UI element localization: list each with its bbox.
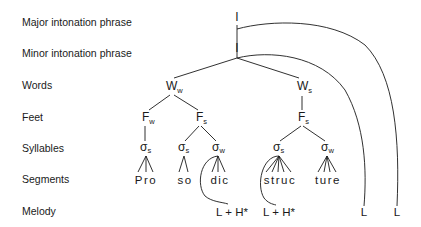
svg-text:σw: σw (212, 140, 225, 155)
svg-text:σw: σw (321, 140, 334, 155)
svg-text:σs: σs (140, 140, 151, 155)
segment-so: so (177, 174, 192, 186)
node-foot-weak: Fw (142, 110, 155, 126)
branch-Ww-Fs (174, 95, 198, 110)
melody-boundary-minor: L (361, 206, 368, 218)
segment-struc: struc (264, 174, 296, 186)
node-word-strong: Ws (297, 79, 312, 95)
branch-Ww-Fw (149, 95, 170, 110)
segment-dic: dic (210, 174, 229, 186)
node-syllable-ture: σw (321, 140, 334, 155)
svg-text:σs: σs (178, 140, 189, 155)
node-syllable-struc: σs (273, 140, 284, 155)
branch-Fs-syl2 (185, 126, 199, 141)
node-foot-strong-2: Fs (298, 110, 309, 126)
node-syllable-pro: σs (140, 140, 151, 155)
association-arc-minor-L (237, 55, 365, 206)
node-word-weak: Ww (166, 79, 183, 95)
segment-ture: ture (315, 174, 341, 186)
melody-accent-1: L + H* (216, 206, 248, 218)
svg-text:Fs: Fs (298, 110, 309, 126)
node-minor-intonation-phrase: I (235, 41, 238, 55)
branch-Fs-syl3 (201, 126, 216, 141)
node-foot-strong-1: Fs (196, 110, 207, 126)
melody-boundary-major: L (394, 206, 401, 218)
branch-minor-Ww (174, 58, 237, 78)
node-major-intonation-phrase: I (235, 10, 238, 24)
node-syllable-dic: σw (212, 140, 225, 155)
prosodic-tree: I I Ww Ws Fw Fs Fs σs σs σw σs σw (0, 0, 421, 227)
branch-Fs-syl4 (280, 126, 301, 141)
svg-text:Ww: Ww (166, 79, 183, 95)
branch-minor-Ws (237, 58, 299, 78)
segment-pro: Pro (135, 174, 157, 186)
melody-accent-2: L + H* (263, 206, 295, 218)
svg-text:Fw: Fw (142, 110, 155, 126)
branches-syllable-segments (138, 156, 336, 172)
svg-text:Fs: Fs (196, 110, 207, 126)
svg-text:σs: σs (273, 140, 284, 155)
node-syllable-so: σs (178, 140, 189, 155)
branch-Fs-syl5 (303, 126, 325, 141)
svg-text:Ws: Ws (297, 79, 312, 95)
